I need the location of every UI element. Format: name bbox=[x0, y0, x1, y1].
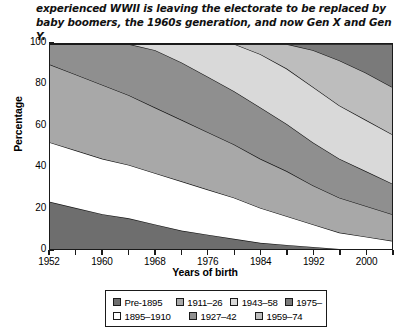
x-tick-mark bbox=[181, 250, 182, 255]
x-tick-mark bbox=[366, 250, 367, 255]
y-tick-label: 20 bbox=[12, 202, 46, 213]
y-axis-ticks: 020406080100 bbox=[4, 40, 46, 253]
area-series-svg bbox=[50, 44, 392, 249]
legend-label: Pre-1895 bbox=[125, 297, 163, 308]
legend-item[interactable]: Pre-1895 bbox=[113, 297, 176, 308]
legend-label: 1895–1910 bbox=[125, 311, 171, 322]
legend-label: 1911–26 bbox=[187, 297, 222, 308]
x-tick-mark bbox=[48, 250, 49, 255]
legend-item[interactable]: 1911–26 bbox=[176, 297, 230, 308]
legend-swatch bbox=[113, 312, 121, 320]
legend-row: Pre-18951911–261943–581975– bbox=[113, 295, 326, 309]
legend-label: 1943–58 bbox=[242, 297, 278, 308]
x-tick-mark bbox=[128, 250, 129, 255]
x-tick-mark bbox=[75, 250, 76, 255]
legend-item[interactable]: 1975– bbox=[285, 297, 326, 308]
legend-item[interactable]: 1943–58 bbox=[230, 297, 284, 308]
legend-label: 1959–74 bbox=[267, 311, 303, 322]
legend-swatch bbox=[113, 298, 121, 306]
x-tick-mark bbox=[234, 250, 235, 255]
y-tick-label: 80 bbox=[12, 77, 46, 88]
x-tick-mark bbox=[207, 250, 208, 255]
x-tick-mark bbox=[339, 250, 340, 255]
legend-label: 1975– bbox=[296, 297, 322, 308]
plot-area bbox=[49, 43, 393, 250]
legend-swatch bbox=[176, 298, 184, 306]
y-tick-label: 40 bbox=[12, 160, 46, 171]
x-tick-mark bbox=[260, 250, 261, 255]
x-tick-mark bbox=[101, 250, 102, 255]
stacked-area-chart: Percentage 020406080100 1952196019681976… bbox=[0, 40, 410, 255]
legend-swatch bbox=[189, 312, 197, 320]
legend-item[interactable]: 1959–74 bbox=[255, 311, 321, 322]
y-tick-label: 60 bbox=[12, 119, 46, 130]
x-tick-mark bbox=[313, 250, 314, 255]
chart-legend: Pre-18951911–261943–581975–1895–19101927… bbox=[105, 290, 327, 327]
legend-row: 1895–19101927–421959–74 bbox=[113, 309, 326, 323]
legend-swatch bbox=[285, 298, 293, 306]
x-tick-mark bbox=[286, 250, 287, 255]
legend-swatch bbox=[230, 298, 238, 306]
legend-label: 1927–42 bbox=[201, 311, 237, 322]
legend-item[interactable]: 1927–42 bbox=[189, 311, 255, 322]
legend-item[interactable]: 1895–1910 bbox=[113, 311, 189, 322]
legend-swatch bbox=[255, 312, 263, 320]
x-tick-mark bbox=[392, 250, 393, 255]
y-tick-label: 100 bbox=[12, 36, 46, 47]
figure-caption: experienced WWII is leaving the electora… bbox=[36, 1, 396, 43]
x-axis-label: Years of birth bbox=[0, 266, 410, 278]
x-tick-mark bbox=[154, 250, 155, 255]
